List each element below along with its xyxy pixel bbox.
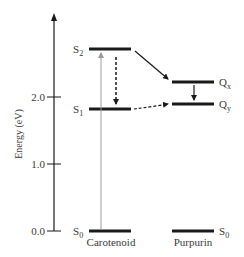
label-S1: S1 [73,103,83,118]
energy-level-diagram: 2.0 1.0 0.0 Energy (eV) S2 S1 S0 Caroten… [0,0,244,257]
tick-label-0: 0.0 [31,225,45,237]
tick-label-1: 1.0 [31,158,45,170]
transitions [101,51,194,229]
label-Qx: Qx [219,76,231,91]
tick-label-2: 2.0 [31,91,45,103]
label-S2: S2 [73,43,83,58]
energy-transfer-s2-qx-arrow [135,51,168,79]
label-Qy: Qy [219,98,231,113]
carotenoid-levels: S2 S1 S0 Carotenoid [73,43,136,248]
axis-title: Energy (eV) [13,109,25,159]
molecule-label-carotenoid: Carotenoid [87,236,136,248]
molecule-label-purpurin: Purpurin [174,236,213,248]
label-S0-carotenoid: S0 [73,225,83,240]
energy-transfer-s1-qy-arrow [134,104,168,109]
purpurin-levels: Qx Qy S0 Purpurin [172,76,231,248]
label-S0-purpurin: S0 [219,225,229,240]
energy-axis: 2.0 1.0 0.0 Energy (eV) [13,13,61,237]
axis-arrowhead-icon [51,13,57,21]
